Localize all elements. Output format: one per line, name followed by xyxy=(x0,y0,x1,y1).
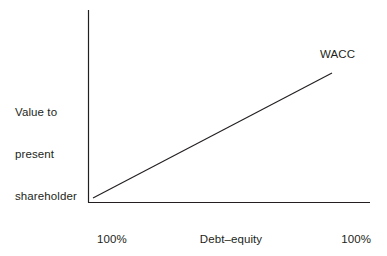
y-axis-label-line-2: present xyxy=(15,147,77,161)
x-tick-label-right: 100% Debt xyxy=(310,204,371,232)
x-tick-left-line-1: 100% xyxy=(97,232,130,246)
x-axis-title-line-1: Debt–equity xyxy=(171,232,291,246)
y-axis-label-line-3: shareholder xyxy=(15,189,77,203)
wacc-series-line xyxy=(93,73,332,198)
x-axis-title: Debt–equity ratio xyxy=(171,204,291,232)
series-label-wacc: WACC xyxy=(320,47,355,61)
x-tick-right-line-1: 100% xyxy=(310,232,371,246)
wacc-chart-figure: Value to present shareholder WACC 100% E… xyxy=(0,0,387,256)
x-tick-label-left: 100% Equity xyxy=(97,204,130,232)
y-axis-label-line-1: Value to xyxy=(15,105,77,119)
y-axis-label: Value to present shareholder xyxy=(15,77,77,231)
